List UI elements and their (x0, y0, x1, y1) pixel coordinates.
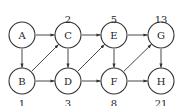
nodes-layer: AB1C2D3E5F8G13H21 (9, 14, 174, 107)
node-weight: 2 (65, 14, 71, 25)
node-label: C (64, 30, 72, 41)
node-weight: 21 (155, 98, 168, 107)
edges-layer (22, 35, 161, 81)
node-f: F8 (101, 68, 127, 106)
node-e: E5 (101, 14, 127, 49)
directed-graph: AB1C2D3E5F8G13H21 (0, 0, 176, 106)
edge-b-c (32, 45, 59, 72)
edge-d-e (78, 45, 105, 72)
node-d: D3 (55, 68, 81, 106)
node-label: E (110, 30, 117, 41)
node-weight: 13 (155, 14, 168, 25)
node-label: H (157, 76, 166, 87)
node-h: H21 (148, 68, 174, 106)
node-label: B (18, 76, 25, 87)
node-c: C2 (55, 14, 81, 49)
node-label: D (64, 76, 72, 87)
node-label: A (17, 30, 26, 41)
node-b: B1 (9, 68, 35, 106)
node-label: F (111, 76, 118, 87)
node-weight: 5 (111, 14, 117, 25)
node-g: G13 (148, 14, 174, 49)
node-weight: 8 (111, 98, 117, 107)
node-weight: 3 (65, 98, 71, 107)
node-weight: 1 (19, 98, 25, 107)
edge-f-g (124, 44, 151, 71)
node-label: G (157, 30, 165, 41)
node-a: A (9, 22, 35, 48)
